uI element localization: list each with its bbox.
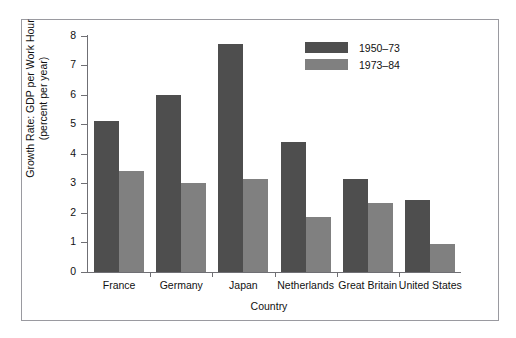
y-tick-label: 8 — [70, 29, 76, 42]
bar — [181, 183, 206, 272]
y-tick: 3 — [81, 183, 87, 184]
y-tick: 5 — [81, 124, 87, 125]
y-tick: 7 — [81, 65, 87, 66]
legend-swatch — [305, 42, 348, 53]
bar — [343, 179, 368, 272]
legend-swatch — [305, 59, 348, 70]
bar — [156, 95, 181, 272]
y-tick: 6 — [81, 95, 87, 96]
y-axis-title: Growth Rate: GDP per Work Hour (percent … — [24, 9, 49, 189]
bar — [281, 142, 306, 272]
y-tick-label: 0 — [70, 265, 76, 278]
y-tick-label: 1 — [70, 235, 76, 248]
y-tick-label: 2 — [70, 206, 76, 219]
x-axis-spine — [87, 272, 461, 273]
x-tick — [337, 272, 338, 277]
x-group-label: France — [88, 279, 150, 291]
x-axis-title-text: Country — [251, 300, 288, 312]
x-tick — [399, 272, 400, 277]
x-group-label: Great Britain — [337, 279, 399, 291]
legend-item: 1973–84 — [305, 58, 400, 71]
x-group-label: United States — [399, 279, 461, 291]
chart-legend: 1950–731973–84 — [305, 41, 400, 75]
y-tick: 0 — [81, 272, 87, 273]
bar — [430, 244, 455, 272]
y-tick-label: 4 — [70, 147, 76, 160]
bar — [119, 171, 144, 272]
figure-frame — [21, 19, 499, 321]
x-tick — [150, 272, 151, 277]
y-tick: 4 — [81, 154, 87, 155]
legend-label: 1973–84 — [359, 59, 400, 71]
y-tick: 8 — [81, 36, 87, 37]
x-group-label: Germany — [150, 279, 212, 291]
bar — [306, 217, 331, 272]
bar — [218, 44, 243, 272]
x-group-label: Netherlands — [275, 279, 337, 291]
x-tick — [212, 272, 213, 277]
x-tick — [275, 272, 276, 277]
y-axis-spine — [87, 35, 88, 273]
legend-label: 1950–73 — [359, 42, 400, 54]
bar — [368, 203, 393, 272]
bar — [243, 179, 268, 272]
y-tick-label: 7 — [70, 58, 76, 71]
y-tick-label: 5 — [70, 117, 76, 130]
y-tick-label: 6 — [70, 88, 76, 101]
bar — [94, 121, 119, 272]
bar — [405, 200, 430, 272]
y-tick: 2 — [81, 213, 87, 214]
y-tick: 1 — [81, 242, 87, 243]
x-group-label: Japan — [212, 279, 274, 291]
x-axis-title: Country — [0, 300, 516, 312]
y-tick-label: 3 — [70, 176, 76, 189]
legend-item: 1950–73 — [305, 41, 400, 54]
